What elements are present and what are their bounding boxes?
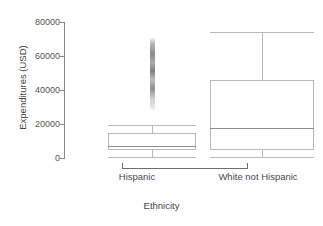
y-tick-label-20000: 20000 <box>14 120 60 129</box>
y-tick-mark-20000 <box>60 124 64 125</box>
y-tick-label-60000: 60000 <box>14 52 60 61</box>
y-tick-mark-40000 <box>60 90 64 91</box>
y-tick-mark-80000 <box>60 22 64 23</box>
y-tick-mark-0 <box>60 158 64 159</box>
median-line-hispanic <box>108 146 196 147</box>
x-tick-label-white-not-hispanic: White not Hispanic <box>196 171 320 182</box>
y-axis-tick-marks <box>60 0 65 226</box>
y-tick-mark-60000 <box>60 56 64 57</box>
x-axis-title: Ethnicity <box>0 200 323 211</box>
x-tick-label-hispanic: Hispanic <box>92 171 182 182</box>
whisker-line-bottom-white-not-hispanic <box>262 150 263 157</box>
y-tick-label-40000: 40000 <box>14 86 60 95</box>
y-tick-label-0: 0 <box>14 154 60 163</box>
median-line-white-not-hispanic <box>210 128 314 129</box>
whisker-line-top-white-not-hispanic <box>262 32 263 80</box>
whisker-cap-bottom-white-not-hispanic <box>210 157 314 158</box>
whisker-cap-bottom-hispanic <box>108 157 196 158</box>
y-axis-tick-labels: 80000 60000 40000 20000 0 <box>8 0 60 226</box>
y-tick-label-80000: 80000 <box>14 18 60 27</box>
box-hispanic <box>108 133 196 150</box>
box-white-not-hispanic <box>210 80 314 150</box>
x-axis-bracket <box>122 163 248 169</box>
outlier-cluster-hispanic <box>150 38 155 110</box>
whisker-line-bottom-hispanic <box>152 150 153 157</box>
boxplot-figure: Expenditures (USD) 80000 60000 40000 200… <box>0 0 323 226</box>
plot-area <box>66 14 318 164</box>
whisker-line-top-hispanic <box>152 125 153 133</box>
